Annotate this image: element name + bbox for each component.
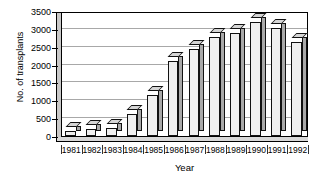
bar-side-face (158, 90, 163, 131)
bar-front-face (65, 131, 76, 136)
bar-1990 (250, 17, 266, 136)
bar-1981 (65, 126, 81, 136)
y-tick-label: 0 (18, 133, 51, 142)
y-tick-mark (52, 119, 58, 120)
y-axis-tick-labels: 0500100015002000250030003500 (18, 8, 51, 142)
bar-front-face (271, 28, 282, 136)
bar-side-face (302, 37, 307, 131)
x-tick-label: 1984 (123, 145, 144, 155)
x-tick-label: 1992 (287, 145, 308, 155)
x-tick-separator (308, 145, 309, 154)
bar-1992 (291, 37, 307, 136)
x-axis-title: Year (61, 162, 308, 173)
bar-1982 (86, 124, 102, 136)
bar-side-face (178, 56, 183, 131)
bar-side-face (96, 124, 101, 131)
y-tick-mark (52, 137, 58, 138)
x-tick-separator (164, 145, 165, 154)
y-tick-label: 1500 (18, 79, 51, 88)
bar-front-face (147, 95, 158, 136)
x-tick-label: 1988 (205, 145, 226, 155)
x-tick-label: 1983 (102, 145, 123, 155)
bar-front-face (230, 33, 241, 136)
x-tick-separator (143, 145, 144, 154)
x-tick-label: 1981 (61, 145, 82, 155)
bar-side-face (240, 28, 245, 131)
bar-1989 (230, 28, 246, 136)
bar-side-face (281, 23, 286, 131)
x-tick-separator (82, 145, 83, 154)
x-tick-separator (185, 145, 186, 154)
x-tick-label: 1982 (82, 145, 103, 155)
bar-side-face (137, 109, 142, 131)
bar-1987 (189, 44, 205, 137)
bar-1991 (271, 23, 287, 136)
x-tick-label: 1991 (267, 145, 288, 155)
y-tick-label: 500 (18, 115, 51, 124)
x-tick-label: 1990 (246, 145, 267, 155)
y-tick-mark (52, 83, 58, 84)
bar-front-face (86, 129, 97, 136)
y-tick-mark (52, 101, 58, 102)
x-tick-separator (267, 145, 268, 154)
x-tick-separator (287, 145, 288, 154)
bar-1988 (209, 32, 225, 136)
y-tick-mark (52, 66, 58, 67)
bar-1984 (127, 109, 143, 136)
x-tick-separator (102, 145, 103, 154)
bar-front-face (189, 49, 200, 137)
bar-1983 (106, 123, 122, 136)
bar-front-face (127, 114, 138, 136)
x-tick-separator (246, 145, 247, 154)
y-tick-mark (52, 30, 58, 31)
bar-1985 (147, 90, 163, 136)
y-tick-mark (52, 48, 58, 49)
x-tick-label: 1986 (164, 145, 185, 155)
bar-front-face (209, 37, 220, 136)
axis-floor-3d (56, 137, 308, 142)
bar-front-face (291, 42, 302, 136)
bar-front-face (250, 22, 261, 136)
bar-1986 (168, 56, 184, 136)
x-tick-separator (226, 145, 227, 154)
bar-front-face (106, 128, 117, 136)
y-tick-label: 1000 (18, 97, 51, 106)
y-tick-label: 2500 (18, 43, 51, 52)
x-tick-label: 1987 (185, 145, 206, 155)
x-tick-separator (205, 145, 206, 154)
bar-side-face (199, 44, 204, 132)
x-tick-separator (61, 145, 62, 154)
y-tick-mark (52, 12, 58, 13)
bar-chart-figure: No. of transplants 050010001500200025003… (0, 0, 316, 184)
x-tick-label: 1989 (226, 145, 247, 155)
x-tick-label: 1985 (143, 145, 164, 155)
bar-side-face (261, 17, 266, 131)
y-tick-label: 3500 (18, 8, 51, 17)
bar-front-face (168, 61, 179, 136)
plot-area (61, 12, 308, 137)
x-tick-separator (123, 145, 124, 154)
y-tick-label: 2000 (18, 61, 51, 70)
bars-layer (62, 13, 307, 136)
bar-side-face (117, 123, 122, 131)
y-tick-label: 3000 (18, 25, 51, 34)
bar-side-face (220, 32, 225, 131)
